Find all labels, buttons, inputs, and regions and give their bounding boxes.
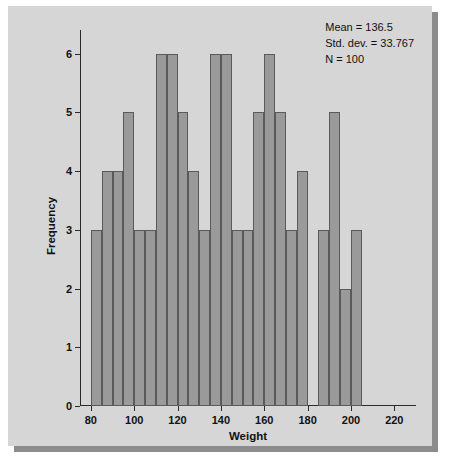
y-tick-label: 3 xyxy=(66,224,72,236)
histogram-bar xyxy=(264,54,275,407)
histogram-bar xyxy=(340,289,351,407)
histogram-bar xyxy=(188,171,199,406)
histogram-bar xyxy=(210,54,221,407)
histogram-bar xyxy=(134,230,145,406)
x-tick-label: 140 xyxy=(212,414,230,426)
y-tick-label: 6 xyxy=(66,48,72,60)
x-tick xyxy=(178,406,179,411)
x-tick xyxy=(134,406,135,411)
x-tick xyxy=(221,406,222,411)
histogram-bar xyxy=(167,54,178,407)
x-tick-label: 200 xyxy=(342,414,360,426)
x-tick-label: 160 xyxy=(255,414,273,426)
histogram-bar xyxy=(102,171,113,406)
histogram-bar xyxy=(113,171,124,406)
y-tick xyxy=(75,406,80,407)
histogram-bar xyxy=(178,112,189,406)
stat-mean: Mean = 136.5 xyxy=(325,20,414,36)
x-tick-label: 120 xyxy=(168,414,186,426)
stat-n: N = 100 xyxy=(325,52,414,68)
x-tick-label: 180 xyxy=(298,414,316,426)
histogram-bar xyxy=(329,112,340,406)
histogram-bar xyxy=(156,54,167,407)
y-axis-label: Frequency xyxy=(45,197,57,255)
x-tick xyxy=(308,406,309,411)
x-tick-label: 80 xyxy=(85,414,97,426)
histogram-bar xyxy=(275,112,286,406)
histogram-bar xyxy=(253,112,264,406)
x-axis-label: Weight xyxy=(80,430,416,442)
histogram-bar xyxy=(145,230,156,406)
histogram-bar xyxy=(318,230,329,406)
histogram-bars xyxy=(80,30,416,406)
x-tick xyxy=(351,406,352,411)
x-tick-label: 100 xyxy=(125,414,143,426)
y-tick-label: 0 xyxy=(66,400,72,412)
histogram-bar xyxy=(232,230,243,406)
x-tick xyxy=(91,406,92,411)
histogram-bar xyxy=(199,230,210,406)
histogram-bar xyxy=(243,230,254,406)
histogram-figure: Frequency 0123456 8010012014016018020022… xyxy=(8,6,432,446)
y-tick-label: 4 xyxy=(66,165,72,177)
y-tick-label: 2 xyxy=(66,283,72,295)
histogram-bar xyxy=(221,54,232,407)
stat-std-dev: Std. dev. = 33.767 xyxy=(325,36,414,52)
y-tick-label: 1 xyxy=(66,341,72,353)
histogram-bar xyxy=(123,112,134,406)
statistics-annotation: Mean = 136.5 Std. dev. = 33.767 N = 100 xyxy=(325,20,414,68)
plot-area: 0123456 80100120140160180200220 xyxy=(80,30,416,406)
histogram-bar xyxy=(297,171,308,406)
histogram-bar xyxy=(351,230,362,406)
histogram-bar xyxy=(286,230,297,406)
x-tick xyxy=(264,406,265,411)
x-tick xyxy=(394,406,395,411)
histogram-bar xyxy=(91,230,102,406)
y-tick-label: 5 xyxy=(66,106,72,118)
x-tick-label: 220 xyxy=(385,414,403,426)
